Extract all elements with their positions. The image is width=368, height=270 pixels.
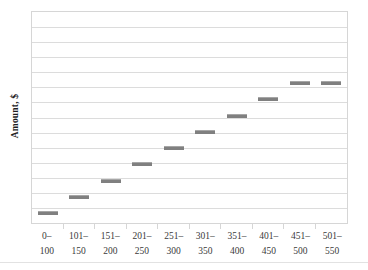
x-axis-label-line1: 0– <box>31 229 63 244</box>
x-axis-labels: 0–100101–150151–200201–250251–300301–350… <box>31 229 348 263</box>
x-axis-label-line1: 351– <box>221 229 253 244</box>
bar <box>69 195 89 199</box>
x-axis-label-line2: 550 <box>316 244 348 259</box>
chart-container: Amount, $ 0–100101–150151–200201–250251–… <box>0 0 368 270</box>
x-axis-label-line2: 150 <box>63 244 95 259</box>
x-axis-label-line1: 201– <box>126 229 158 244</box>
x-axis-label: 101–150 <box>63 229 95 263</box>
x-axis-label: 401–450 <box>253 229 285 263</box>
gridline <box>32 148 347 149</box>
x-axis-label: 251–300 <box>158 229 190 263</box>
bar <box>101 179 121 183</box>
x-axis-label-line2: 100 <box>31 244 63 259</box>
x-axis-label-line2: 450 <box>253 244 285 259</box>
x-axis-label: 201–250 <box>126 229 158 263</box>
gridline <box>32 133 347 134</box>
gridline <box>32 208 347 209</box>
gridline <box>32 163 347 164</box>
gridline <box>32 72 347 73</box>
x-axis-label-line1: 101– <box>63 229 95 244</box>
x-axis-label-line2: 250 <box>126 244 158 259</box>
x-axis-label-line2: 200 <box>94 244 126 259</box>
bar <box>38 211 58 215</box>
bar <box>321 81 341 85</box>
gridline <box>32 27 347 28</box>
x-axis-label-line2: 350 <box>190 244 222 259</box>
x-axis-label: 501–550 <box>316 229 348 263</box>
x-axis-label-line2: 500 <box>285 244 317 259</box>
bar <box>258 97 278 101</box>
x-axis-label: 151–200 <box>94 229 126 263</box>
x-axis-label-line2: 400 <box>221 244 253 259</box>
bottom-divider <box>0 262 368 263</box>
x-axis-label: 451–500 <box>285 229 317 263</box>
gridline <box>32 57 347 58</box>
bar <box>132 162 152 166</box>
x-axis-label: 351–400 <box>221 229 253 263</box>
x-axis-label-line1: 251– <box>158 229 190 244</box>
x-axis-label-line2: 300 <box>158 244 190 259</box>
gridline <box>32 118 347 119</box>
bar <box>227 114 247 118</box>
gridline <box>32 87 347 88</box>
bar <box>195 130 215 134</box>
gridline <box>32 102 347 103</box>
x-axis-label-line1: 401– <box>253 229 285 244</box>
y-axis-title: Amount, $ <box>0 0 30 232</box>
x-axis-label-line1: 151– <box>94 229 126 244</box>
gridline <box>32 178 347 179</box>
plot-area <box>31 11 348 224</box>
bar <box>164 146 184 150</box>
x-axis-label: 301–350 <box>190 229 222 263</box>
x-axis-label-line1: 451– <box>285 229 317 244</box>
x-axis-label: 0–100 <box>31 229 63 263</box>
gridline <box>32 42 347 43</box>
bar <box>290 81 310 85</box>
x-axis-label-line1: 501– <box>316 229 348 244</box>
x-axis-label-line1: 301– <box>190 229 222 244</box>
y-axis-title-label: Amount, $ <box>10 94 20 139</box>
